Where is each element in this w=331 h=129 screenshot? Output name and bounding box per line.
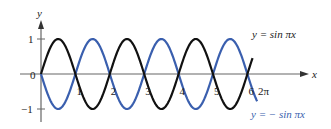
y-axis-arrow-icon <box>38 20 44 29</box>
neg-sin-curve-label: y = − sin πx <box>250 108 305 120</box>
sin-curve-label: y = sin πx <box>251 28 296 40</box>
plot-area: y x 0 1 −1 123456 2π y = sin πx y = − si… <box>0 0 331 129</box>
x-tick-label: 3 <box>145 85 151 97</box>
y-axis-label: y <box>36 7 42 19</box>
x-tick-label: 4 <box>180 85 186 97</box>
x-axis-label: x <box>311 68 317 80</box>
x-axis-arrow-icon <box>300 71 309 77</box>
origin-label: 0 <box>30 69 36 81</box>
x-tick-label: 5 <box>214 85 220 97</box>
x-tick-label: 6 <box>248 85 254 97</box>
x-tick-label: 2 <box>111 85 117 97</box>
y-tick-label-1: 1 <box>28 33 34 45</box>
x-tick-label: 1 <box>76 85 82 97</box>
chart-figure: y x 0 1 −1 123456 2π y = sin πx y = − si… <box>0 0 331 129</box>
two-pi-label: 2π <box>258 85 270 97</box>
y-tick-label-neg1: −1 <box>21 103 33 115</box>
